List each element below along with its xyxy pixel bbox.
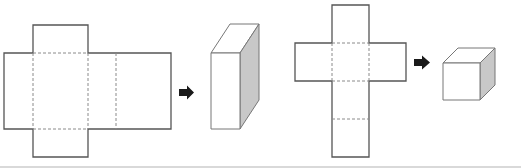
cube-net-cross bbox=[295, 5, 406, 157]
diagram-canvas bbox=[0, 0, 521, 168]
rectangular-prism-net bbox=[4, 25, 171, 157]
net-outline bbox=[295, 5, 406, 157]
right-arrow-icon bbox=[414, 56, 430, 70]
bottom-divider bbox=[0, 166, 521, 168]
right-arrow-icon bbox=[179, 86, 194, 100]
rectangular-prism bbox=[211, 24, 259, 129]
cube bbox=[443, 48, 495, 100]
front-face bbox=[211, 53, 240, 129]
front-face bbox=[443, 63, 480, 100]
